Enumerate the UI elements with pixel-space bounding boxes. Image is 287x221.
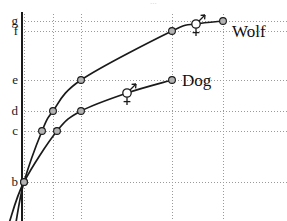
series-label-dog: Dog [182, 72, 211, 89]
vertical-gridlines [24, 14, 223, 221]
figure-canvas: ... gfedcb WolfDog [0, 0, 287, 221]
data-point-wolf-4 [169, 28, 176, 35]
sex-marker-circle [192, 20, 200, 28]
data-point-dog-4 [169, 77, 176, 84]
y-tick-label-d: d [2, 104, 18, 117]
data-point-wolf-3 [78, 77, 85, 84]
data-point-dog-0 [21, 179, 28, 186]
horizontal-gridlines [22, 21, 287, 182]
y-tick-label-e: e [2, 73, 18, 86]
data-point-wolf-1 [39, 128, 46, 135]
y-tick-label-c: c [2, 124, 18, 137]
series-markers [21, 15, 227, 185]
data-point-dog-1 [54, 128, 61, 135]
y-tick-label-b: b [2, 175, 18, 188]
data-point-wolf-2 [50, 108, 57, 115]
curve-wolf [16, 21, 223, 221]
series-label-wolf: Wolf [232, 23, 266, 40]
data-point-wolf-6 [220, 18, 227, 25]
data-point-dog-2 [78, 108, 85, 115]
y-tick-label-f: f [2, 24, 18, 37]
sex-marker-dog [123, 84, 136, 105]
sex-marker-wolf [192, 15, 205, 36]
sex-marker-circle [123, 89, 131, 97]
series-curves [9, 21, 223, 221]
